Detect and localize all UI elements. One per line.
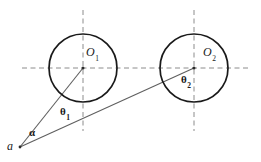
angle-theta-1-label-subscript: 1 bbox=[66, 113, 70, 122]
center-2-label: O2 bbox=[203, 46, 215, 61]
point-a-label-text: a bbox=[7, 139, 13, 153]
angle-theta-2-label: θ2 bbox=[181, 74, 191, 88]
geometry-figure: O1 O2 θ1 θ2 α a bbox=[0, 0, 261, 162]
point-a-label: a bbox=[7, 140, 13, 152]
angle-theta-2-label-subscript: 2 bbox=[187, 81, 191, 90]
angle-theta-1-label-text: θ bbox=[60, 105, 66, 117]
figure-canvas bbox=[0, 0, 261, 162]
center-1-label-subscript: 1 bbox=[95, 54, 99, 63]
center-1-label-text: O bbox=[86, 45, 95, 59]
center-point-1-dot bbox=[82, 67, 85, 70]
ray-a-to-o2-line bbox=[20, 68, 194, 147]
angle-alpha-label: α bbox=[29, 127, 35, 138]
center-2-label-subscript: 2 bbox=[212, 54, 216, 63]
center-1-label: O1 bbox=[86, 46, 98, 61]
angle-theta-1-label: θ1 bbox=[60, 106, 70, 120]
point-a-dot bbox=[19, 146, 22, 149]
center-point-2-dot bbox=[193, 67, 196, 70]
angle-theta-2-label-text: θ bbox=[181, 73, 187, 85]
angle-alpha-label-text: α bbox=[29, 126, 35, 138]
center-2-label-text: O bbox=[203, 45, 212, 59]
